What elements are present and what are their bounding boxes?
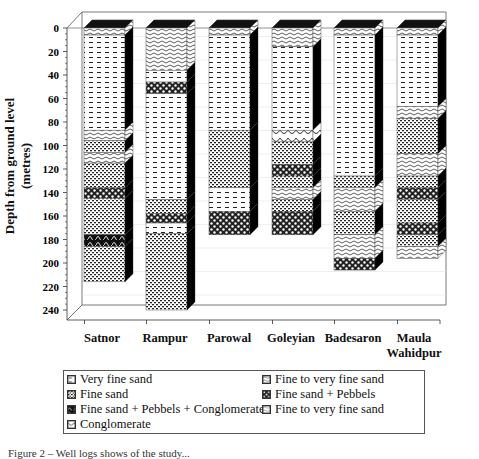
y-tick-label: 60 [48,93,60,105]
well-column-maula-wahidpur [397,20,446,258]
y-tick-label: 120 [43,163,60,175]
y-tick-label: 80 [48,116,60,128]
y-tick-label: 0 [54,22,60,34]
site-label-satnor: Satnor [67,331,137,346]
y-tick-label: 240 [43,304,60,316]
legend-item-fine-to-very-fine-sand-2: Fine to very fine sand [262,402,384,417]
well-column-goleyian [272,20,321,235]
legend-item-fine-sand: Fine sand [67,387,128,402]
conglomerate-swatch-icon [67,420,76,429]
legend-item-conglomerate: Conglomerate [67,417,151,432]
x-axis-ticks [85,320,441,324]
well-column-rampur [146,20,195,310]
layer-vfs [146,86,195,200]
well-column-badesaron [334,20,383,270]
layer-vfs [84,27,133,130]
site-label-parowal: Parowal [194,331,264,346]
y-axis-label: Depth from ground level (metres) [2,86,34,246]
fine-sand-swatch-icon [67,390,76,399]
fine-to-very-fine-sand-swatch-icon [262,375,271,384]
site-label-line: Badesaron [318,331,388,346]
site-label-line: Wahidpur [379,346,449,361]
layer-fs [146,226,195,310]
fine-sand-pebbels-conglomerate-swatch-icon [67,405,76,414]
layer-vfs [272,39,321,130]
fine-to-very-fine-sand-alt-swatch-icon [262,405,271,414]
site-label-rampur: Rampur [130,331,200,346]
site-label-maula-wahidpur: MaulaWahidpur [379,331,449,361]
y-axis: 020406080100120140160180200220240 [43,22,68,320]
site-label-line: Parowal [194,331,264,346]
y-tick-label: 180 [43,234,60,246]
legend-item-fine-sand-pebbels-conglomerate: Fine sand + Pebbels + Conglomerate [67,402,265,417]
site-label-line: Rampur [130,331,200,346]
y-tick-label: 200 [43,257,60,269]
very-fine-sand-swatch-icon [67,375,76,384]
y-tick-label: 40 [48,69,60,81]
layer-vfs [334,27,383,176]
gridlines [82,37,446,296]
layer-vfs [397,27,446,107]
site-label-badesaron: Badesaron [318,331,388,346]
y-tick-label: 20 [48,46,60,58]
well-columns [84,20,446,310]
site-label-line: Maula [379,331,449,346]
figure-caption: Figure 2 – Well logs shows of the study.… [8,447,190,459]
legend-item-fine-to-very-fine-sand: Fine to very fine sand [262,372,384,387]
legend: Very fine sand Fine sand Fine sand + Peb… [63,370,425,434]
well-column-satnor [84,20,133,282]
y-tick-label: 100 [43,140,60,152]
site-label-goleyian: Goleyian [256,331,326,346]
fine-sand-pebbels-swatch-icon [262,390,271,399]
layer-fs [209,122,258,188]
y-tick-label: 160 [43,210,60,222]
y-tick-label: 140 [43,187,60,199]
y-tick-label: 220 [43,281,60,293]
legend-item-very-fine-sand: Very fine sand [67,372,152,387]
site-label-line: Satnor [67,331,137,346]
legend-item-fine-sand-pebbels: Fine sand + Pebbels [262,387,375,402]
well-column-parowal [209,20,258,235]
layer-vfs [209,27,258,130]
site-label-line: Goleyian [256,331,326,346]
well-log-chart: 020406080100120140160180200220240 [0,0,479,335]
